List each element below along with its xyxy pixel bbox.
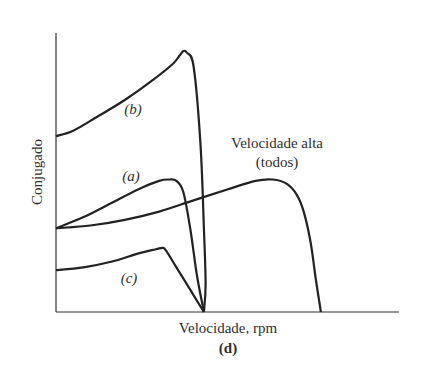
annotation-a: (a) [122,168,140,185]
panel-label: (d) [219,340,237,357]
annotation-b: (b) [124,101,142,118]
annotation-all: (todos) [256,154,299,171]
curve-high-speed [56,179,321,312]
curve-a [56,179,204,312]
torque-speed-chart: Conjugado Velocidade, rpm (d) (b) (a) (c… [0,0,424,385]
xlabel: Velocidade, rpm [179,320,278,336]
ylabel: Conjugado [29,139,45,205]
annotation-high-speed: Velocidade alta [231,135,323,151]
annotation-c: (c) [121,270,138,287]
